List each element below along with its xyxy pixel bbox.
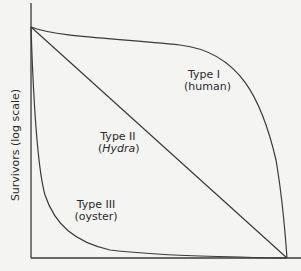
type-iii-label: Type III (oyster) [74,199,118,223]
type-ii-species: Hydra [102,142,135,155]
type-i-label: Type I (human) [184,69,224,93]
type-i-organism: (human) [184,81,224,93]
paren-close: ) [135,142,139,155]
type-ii-label: Type II (Hydra) [98,131,138,155]
y-axis-label: Survivors (log scale) [9,89,22,201]
survivorship-chart [0,0,301,271]
type-iii-organism: (oyster) [74,211,118,223]
type-ii-organism: (Hydra) [98,143,138,155]
type-ii-line [31,27,287,258]
